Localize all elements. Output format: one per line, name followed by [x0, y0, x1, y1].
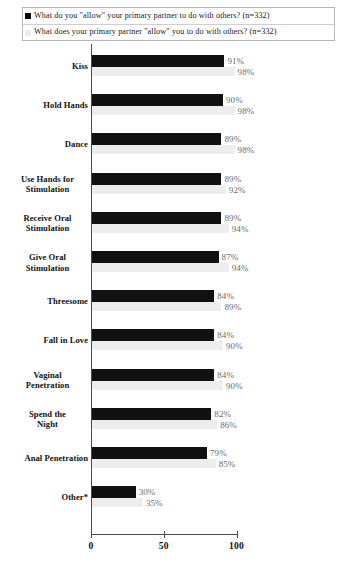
bar-series-allow-partner [92, 212, 221, 224]
bar-value-label: 91% [227, 56, 244, 66]
category-label: Spend theNight [0, 409, 95, 430]
bar-group: Hold Hands90%98% [0, 94, 343, 120]
legend-swatch-dark-icon [25, 13, 31, 19]
bar-value-label: 90% [226, 95, 243, 105]
x-tick-label: 100 [229, 541, 244, 551]
bar-value-label: 89% [224, 134, 241, 144]
bar-value-label: 92% [229, 185, 246, 195]
bar-series-partner-allows-you [92, 67, 235, 76]
category-label: Kiss [0, 61, 88, 72]
bar-series-partner-allows-you [92, 341, 223, 350]
bar-value-label: 94% [232, 263, 249, 273]
x-tick-mark [237, 531, 238, 538]
bar-value-label: 86% [220, 420, 237, 430]
plot-area: 050100 Kiss91%98%Hold Hands90%98%Dance89… [0, 44, 343, 562]
bar-group: Spend theNight82%86% [0, 408, 343, 434]
x-tick-label: 0 [89, 541, 94, 551]
bar-series-partner-allows-you [92, 302, 221, 311]
legend-label-partner-allows-you: What does your primary partner "allow" y… [34, 28, 277, 36]
bar-series-allow-partner [92, 486, 136, 498]
bar-value-label: 90% [226, 341, 243, 351]
bar-series-partner-allows-you [92, 106, 235, 115]
bar-series-partner-allows-you [92, 381, 223, 390]
bar-group: Other*30%35% [0, 486, 343, 512]
bar-value-label: 84% [217, 330, 234, 340]
x-tick-mark [91, 531, 92, 538]
bar-value-label: 85% [219, 459, 236, 469]
bar-series-partner-allows-you [92, 459, 216, 468]
x-tick-mark [164, 531, 165, 538]
bar-value-label: 90% [226, 381, 243, 391]
bar-chart: What do you "allow" your primary partner… [0, 0, 343, 562]
bar-series-allow-partner [92, 94, 223, 106]
bar-series-partner-allows-you [92, 263, 229, 272]
bar-value-label: 89% [224, 174, 241, 184]
category-label: Dance [0, 139, 88, 150]
bar-value-label: 84% [217, 291, 234, 301]
bar-series-allow-partner [92, 251, 219, 263]
category-label: Use Hands forStimulation [0, 174, 95, 195]
bar-group: Threesome84%89% [0, 290, 343, 316]
category-label: Hold Hands [0, 100, 88, 111]
bar-value-label: 84% [217, 370, 234, 380]
legend-item-allow-partner: What do you "allow" your primary partner… [22, 7, 335, 24]
legend-label-allow-partner: What do you "allow" your primary partner… [34, 12, 270, 20]
bar-value-label: 89% [224, 302, 241, 312]
bar-value-label: 98% [238, 106, 255, 116]
bar-series-allow-partner [92, 329, 214, 341]
bar-series-allow-partner [92, 408, 211, 420]
bar-group: Kiss91%98% [0, 55, 343, 81]
bar-series-allow-partner [92, 447, 207, 459]
bar-value-label: 30% [139, 487, 156, 497]
bar-series-partner-allows-you [92, 420, 217, 429]
bar-series-partner-allows-you [92, 224, 229, 233]
bar-series-partner-allows-you [92, 145, 235, 154]
x-tick-label: 50 [159, 541, 169, 551]
bar-value-label: 87% [222, 252, 239, 262]
bar-series-partner-allows-you [92, 185, 226, 194]
bar-group: VaginalPenetration84%90% [0, 369, 343, 395]
bar-group: Give OralStimulation87%94% [0, 251, 343, 277]
bar-value-label: 98% [238, 145, 255, 155]
legend-item-partner-allows-you: What does your primary partner "allow" y… [22, 24, 335, 41]
bar-series-partner-allows-you [92, 498, 143, 507]
bar-value-label: 82% [214, 409, 231, 419]
category-label: Threesome [0, 296, 88, 307]
chart-legend: What do you "allow" your primary partner… [22, 7, 335, 41]
bar-group: Use Hands forStimulation89%92% [0, 173, 343, 199]
bar-series-allow-partner [92, 290, 214, 302]
bar-group: Anal Penetration79%85% [0, 447, 343, 473]
bar-group: Fall in Love84%90% [0, 329, 343, 355]
bar-series-allow-partner [92, 55, 224, 67]
bar-series-allow-partner [92, 369, 214, 381]
bar-value-label: 79% [210, 448, 227, 458]
bar-value-label: 98% [238, 67, 255, 77]
bar-group: Dance89%98% [0, 133, 343, 159]
category-label: Give OralStimulation [0, 252, 95, 273]
category-label: VaginalPenetration [0, 370, 95, 391]
bar-group: Receive OralStimulation89%94% [0, 212, 343, 238]
bar-value-label: 94% [232, 224, 249, 234]
category-label: Fall in Love [0, 335, 88, 346]
bar-series-allow-partner [92, 173, 221, 185]
bar-value-label: 89% [224, 213, 241, 223]
category-label: Other* [0, 492, 88, 503]
category-label: Receive OralStimulation [0, 213, 95, 234]
bar-value-label: 35% [146, 498, 163, 508]
legend-swatch-light-icon [25, 30, 31, 36]
category-label: Anal Penetration [0, 453, 88, 464]
bar-series-allow-partner [92, 133, 221, 145]
